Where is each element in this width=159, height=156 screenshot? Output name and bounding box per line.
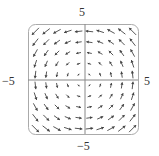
vector-field-plot [0, 0, 159, 156]
arrowhead-icon [34, 76, 37, 79]
arrowhead-icon [80, 127, 83, 130]
x-max-label: 5 [144, 75, 150, 87]
arrowhead-icon [131, 71, 134, 74]
arrowhead-icon [34, 86, 37, 89]
arrowhead-icon [90, 127, 93, 130]
x-min-label: −5 [2, 75, 15, 87]
arrowhead-icon [131, 82, 134, 85]
y-max-label: 5 [79, 6, 85, 18]
y-min-label: −5 [77, 140, 90, 152]
arrowhead-icon [75, 30, 78, 33]
arrowhead-icon [86, 30, 89, 33]
